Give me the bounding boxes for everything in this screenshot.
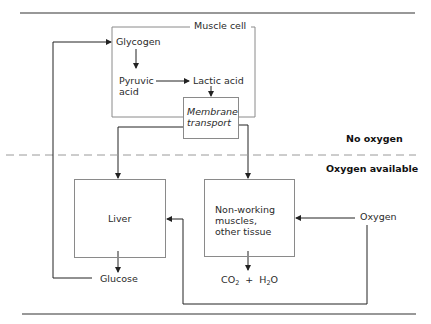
co2-text: CO (221, 274, 235, 285)
lactic-acid-label: Lactic acid (193, 75, 244, 86)
pyruvic-line1: Pyruvic (119, 75, 154, 86)
tissue-box: Non-working muscles, other tissue (204, 179, 295, 257)
glycogen-label: Glycogen (116, 36, 161, 47)
diagram-connectors (0, 0, 431, 324)
oxygen-available-label: Oxygen available (326, 163, 418, 174)
membrane-transport-box: Membrane transport (183, 97, 239, 139)
liver-box: Liver (74, 179, 166, 258)
tissue-line2: muscles, (215, 215, 257, 226)
pyruvic-acid-label: Pyruvic acid (119, 75, 154, 97)
tissue-line3: other tissue (215, 226, 271, 237)
membrane-line2: transport (187, 117, 231, 128)
membrane-line1: Membrane (187, 106, 238, 117)
tissue-line1: Non-working (215, 204, 275, 215)
co2-h2o-label: CO2 + H2O (221, 274, 278, 285)
pyruvic-line2: acid (119, 86, 154, 97)
co2-subscript: 2 (235, 279, 239, 287)
muscle-cell-label: Muscle cell (194, 20, 246, 31)
no-oxygen-label: No oxygen (346, 133, 403, 144)
o-text: O (271, 274, 278, 285)
muscle-cell-box-right (238, 27, 255, 117)
plus-sign: + (245, 274, 253, 285)
oxygen-label: Oxygen (360, 211, 397, 222)
arrow-membrane-to-liver (118, 127, 183, 178)
arrow-membrane-to-tissue (238, 125, 248, 178)
liver-label: Liver (108, 213, 131, 224)
glucose-label: Glucose (100, 273, 138, 284)
